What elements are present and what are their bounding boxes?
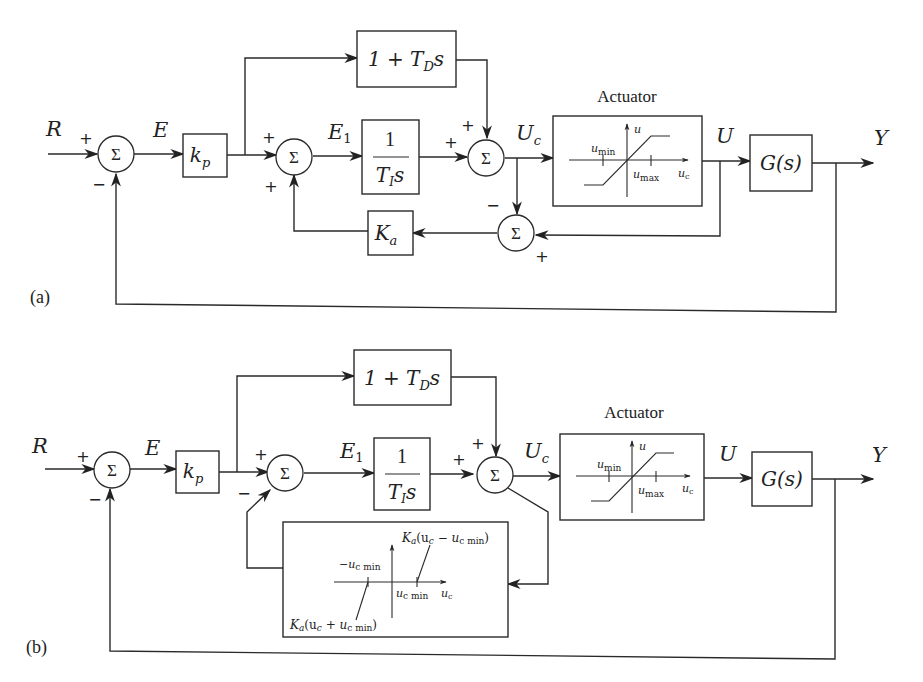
sign-minus: − [486, 196, 499, 215]
signal-u: U [716, 124, 735, 148]
summing-junction-3: Σ [468, 140, 504, 176]
sign-minus: − [92, 175, 105, 194]
sign-plus: + [79, 129, 92, 148]
sign-minus: − [88, 490, 101, 509]
sign-plus: + [535, 247, 548, 266]
signal-e1: E1 [339, 439, 364, 465]
sigma-symbol: Σ [107, 461, 117, 480]
signal-y: Y [872, 443, 888, 467]
wire-ka-to-sum2 [294, 175, 368, 231]
signal-uc: Uc [516, 121, 542, 148]
integrator-numerator: 1 [385, 128, 395, 150]
sign-plus: + [254, 445, 267, 464]
panel-b: Σ + − kp Σ + − 1 + TDs 1 TIs Σ + + [26, 350, 888, 659]
sigma-symbol: Σ [289, 148, 299, 167]
summing-junction-2: Σ [276, 139, 312, 175]
signal-e1: E1 [327, 120, 352, 146]
sigma-symbol: Σ [490, 466, 500, 485]
wire-y-feedback [116, 163, 836, 312]
sign-plus: + [264, 177, 277, 196]
wire-uc-to-deadzone [508, 488, 548, 584]
y-axis-label: u [634, 123, 641, 136]
y-axis-label: u [639, 440, 646, 453]
summing-junction-2: Σ [267, 455, 303, 491]
sign-plus: + [76, 447, 89, 466]
plant-label: G(s) [761, 467, 803, 491]
integrator-numerator: 1 [397, 445, 407, 467]
wire-deadzone-to-sum2 [247, 490, 283, 568]
signal-u: U [719, 442, 738, 466]
signal-r: R [31, 434, 48, 458]
panel-label-b: (b) [26, 637, 47, 658]
sigma-symbol: Σ [111, 145, 121, 164]
block-diagram-canvas: Σ + − kp Σ + + 1 + TDs 1 TIs Σ + + [0, 0, 923, 682]
signal-uc: Uc [524, 439, 550, 466]
actuator-title: Actuator [597, 87, 657, 106]
signal-e: E [152, 118, 168, 142]
summing-junction-3: Σ [477, 457, 513, 493]
sign-plus: + [452, 450, 465, 469]
sign-plus: + [262, 128, 275, 147]
sigma-symbol: Σ [511, 224, 521, 243]
summing-junction-4: Σ [498, 215, 534, 251]
signal-e: E [144, 436, 160, 460]
sigma-symbol: Σ [280, 464, 290, 483]
sign-minus: − [237, 484, 250, 503]
sign-plus: + [471, 434, 484, 453]
sign-plus: + [461, 116, 474, 135]
panel-label-a: (a) [30, 287, 50, 308]
summing-junction-1: Σ [98, 136, 134, 172]
signal-y: Y [874, 126, 890, 150]
plant-label: G(s) [760, 151, 802, 175]
panel-a: Σ + − kp Σ + + 1 + TDs 1 TIs Σ + + [30, 31, 890, 312]
sign-plus: + [444, 133, 457, 152]
signal-r: R [45, 117, 62, 141]
summing-junction-1: Σ [94, 452, 130, 488]
actuator-title: Actuator [604, 403, 664, 422]
sigma-symbol: Σ [481, 149, 491, 168]
